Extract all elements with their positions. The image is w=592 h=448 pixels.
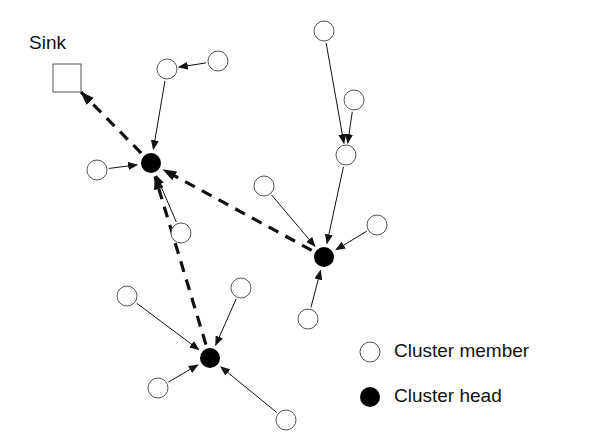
member-link-arrow — [216, 299, 236, 345]
legend-member-icon — [360, 342, 380, 362]
member-link-arrow — [311, 271, 321, 308]
cluster-member-node — [254, 176, 274, 196]
cluster-member-node — [87, 160, 107, 180]
sink-label: Sink — [29, 32, 66, 54]
cluster-member-node — [208, 51, 228, 71]
legend-member-label: Cluster member — [394, 340, 529, 361]
legend-head-icon — [360, 387, 380, 407]
cluster-member-node — [336, 145, 356, 165]
cluster-head-node — [200, 348, 220, 368]
member-link-arrow — [168, 365, 197, 382]
cluster-member-node — [157, 59, 177, 79]
head-link-arrow — [81, 92, 141, 153]
member-link-arrow — [109, 165, 137, 169]
cluster-member-node — [148, 378, 168, 398]
legend-cluster-member: Cluster member — [394, 340, 529, 362]
cluster-member-node — [171, 223, 191, 243]
member-link-arrow — [327, 167, 344, 244]
member-link-arrow — [179, 63, 206, 67]
sink-node — [53, 64, 81, 92]
cluster-member-node — [298, 309, 318, 329]
member-link-arrow — [221, 367, 277, 413]
cluster-member-node — [231, 278, 251, 298]
member-link-arrow — [137, 303, 199, 349]
member-link-arrow — [326, 43, 344, 143]
cluster-member-node — [117, 286, 137, 306]
member-link-arrow — [336, 231, 367, 250]
cluster-head-node — [314, 247, 334, 267]
network-diagram — [0, 0, 592, 448]
cluster-member-node — [276, 410, 296, 430]
member-link-arrow — [348, 112, 353, 143]
cluster-member-node — [344, 90, 364, 110]
cluster-member-node — [367, 215, 387, 235]
cluster-head-node — [141, 153, 161, 173]
member-link-arrow — [153, 81, 165, 149]
legend-cluster-head: Cluster head — [394, 385, 502, 407]
head-link-arrow — [155, 176, 206, 344]
cluster-member-node — [314, 21, 334, 41]
legend-head-label: Cluster head — [394, 385, 502, 406]
